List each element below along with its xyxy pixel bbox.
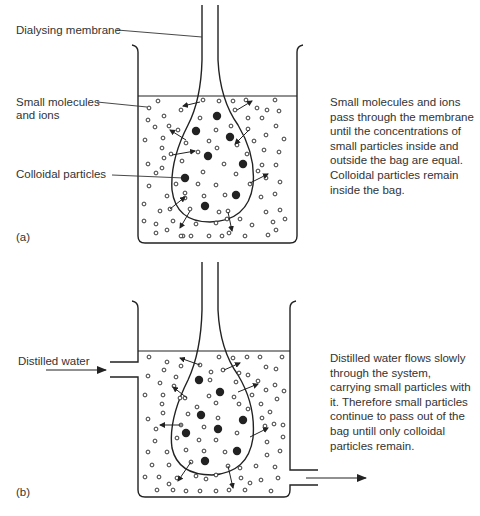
- panel-b-small-particles: [143, 355, 286, 493]
- label-and-ions: and ions: [16, 109, 59, 122]
- panel-a-colloidal-particles: [181, 112, 247, 210]
- panel-a-tag: (a): [16, 231, 30, 244]
- panel-b-colloidal-particles: [182, 376, 247, 465]
- panel-b-tag: (b): [16, 486, 30, 499]
- label-colloidal-particles: Colloidal particles: [16, 168, 106, 181]
- label-small-molecules: Small molecules: [16, 96, 100, 109]
- panel-a-leader-lines: [97, 30, 202, 178]
- panel-a-membrane-bag: [172, 5, 254, 222]
- label-distilled-water: Distilled water: [18, 355, 90, 368]
- panel-b-description: Distilled water flows slowly through the…: [330, 351, 480, 453]
- panel-b-beaker: [110, 301, 318, 497]
- panel-b-membrane-bag: [171, 262, 253, 475]
- panel-a-description: Small molecules and ions pass through th…: [330, 95, 480, 197]
- label-dialysing-membrane: Dialysing membrane: [16, 24, 121, 37]
